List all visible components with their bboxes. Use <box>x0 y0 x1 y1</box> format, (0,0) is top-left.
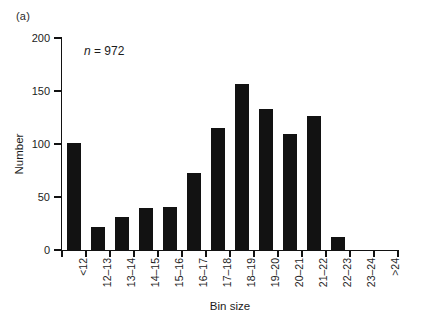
x-axis-tick <box>349 251 350 257</box>
y-axis-tick-labels: 050100150200 <box>0 0 50 319</box>
y-axis-tick <box>54 90 62 91</box>
y-axis-tick <box>54 37 62 38</box>
x-axis-tick <box>205 251 206 257</box>
bar <box>307 116 321 250</box>
y-axis-tick-label: 100 <box>4 139 50 150</box>
bar <box>187 173 201 250</box>
x-axis-title: Bin size <box>62 300 398 312</box>
x-axis-tick <box>109 251 110 257</box>
y-axis-tick-label: 150 <box>4 86 50 97</box>
x-axis-tick <box>157 251 158 257</box>
x-axis-tick <box>85 251 86 257</box>
bar <box>91 227 105 250</box>
x-axis-tick <box>133 251 134 257</box>
bar <box>259 109 273 250</box>
x-axis-tick <box>397 251 398 257</box>
bar <box>139 208 153 250</box>
x-axis-tick <box>325 251 326 257</box>
y-axis-tick-label: 200 <box>4 33 50 44</box>
x-axis-tick <box>301 251 302 257</box>
x-axis-tick-labels: <1212–1313–1414–1515–1616–1717–1818–1919… <box>62 258 398 304</box>
y-axis-tick <box>54 143 62 144</box>
bar <box>115 217 129 250</box>
y-axis-tick-label: 50 <box>4 192 50 203</box>
bar <box>331 237 345 250</box>
bar <box>163 207 177 250</box>
bar <box>67 143 81 250</box>
x-axis-tick <box>229 251 230 257</box>
bar <box>235 84 249 250</box>
bar-series <box>62 38 398 250</box>
x-axis-tick <box>373 251 374 257</box>
y-axis-tick-label: 0 <box>4 245 50 256</box>
bar <box>283 134 297 250</box>
y-axis-tick <box>54 196 62 197</box>
x-axis-tick <box>277 251 278 257</box>
x-axis-tick <box>181 251 182 257</box>
x-axis-tick <box>61 251 62 257</box>
bar <box>211 128 225 250</box>
figure-panel-a: (a) n = 972 Number 050100150200 <1212–13… <box>0 0 426 319</box>
x-axis-tick <box>253 251 254 257</box>
